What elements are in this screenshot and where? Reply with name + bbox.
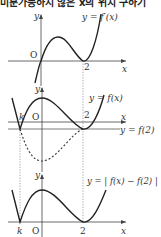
origin-label: O xyxy=(32,226,39,236)
function-graph: y O k 2 x y = f(x) y = f(2) xyxy=(8,84,155,223)
graphs-diagram: y O 2 x y = f′(x) y O k 2 x y = f(x) y =… xyxy=(0,0,161,237)
x-axis-label: x xyxy=(121,112,126,122)
curve-label: y = f(x) xyxy=(88,93,123,103)
tick-label-2: 2 xyxy=(84,62,90,72)
y-axis-arrow-icon xyxy=(40,87,44,92)
y-axis-arrow-icon xyxy=(40,174,44,179)
y-axis-arrow-icon xyxy=(39,14,43,19)
x-axis-label: x xyxy=(121,226,126,236)
y-axis-label: y xyxy=(34,170,41,180)
y-axis-label: y xyxy=(34,84,41,94)
absolute-curve xyxy=(12,190,106,222)
x-axis-arrow-icon xyxy=(121,59,126,63)
reflected-dashed-curve xyxy=(20,129,83,161)
tick-label-k: k xyxy=(19,112,24,122)
tick-label-2: 2 xyxy=(80,226,86,236)
x-axis-label: x xyxy=(122,64,127,74)
curve-label: y = f′(x) xyxy=(81,12,118,22)
x-axis-arrow-icon xyxy=(121,220,126,224)
origin-label: O xyxy=(32,112,39,122)
line-label: y = f(2) xyxy=(119,125,155,135)
y-axis-label: y xyxy=(33,11,40,21)
origin-label: O xyxy=(30,50,37,60)
tick-label-2: 2 xyxy=(84,110,90,120)
derivative-curve xyxy=(35,14,101,83)
tick-label-k: k xyxy=(17,226,22,236)
curve-label: y = | f(x) − f(2) | xyxy=(86,176,158,187)
